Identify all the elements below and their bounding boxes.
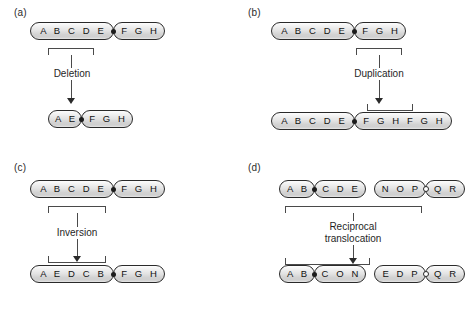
chromosome-arm: F G H F G H xyxy=(354,112,452,130)
arm-letters: A B C D E xyxy=(38,184,107,194)
chromosome-arm: F G H xyxy=(113,265,165,283)
panel-b-chromosome-after: A B C D E F G H F G H xyxy=(271,112,452,130)
panel-d-label: (d) xyxy=(248,162,261,174)
chromosome-arm: A B C D E xyxy=(271,22,355,40)
chromosome-arm: F G H xyxy=(81,110,133,128)
arm-letters: Q R xyxy=(431,184,458,194)
panel-b-bracket-bottom xyxy=(367,104,413,111)
panel-c-label: (c) xyxy=(14,162,26,174)
arm-letters: F G H xyxy=(119,26,160,36)
panel-c-chromosome-before: A B C D E F G H xyxy=(30,180,165,198)
chromosome-arm: N O P xyxy=(374,180,426,198)
panel-b-operation-label: Duplication xyxy=(333,68,425,80)
centromere-icon xyxy=(351,112,358,130)
arm-letters: F G H xyxy=(87,114,128,124)
panel-d-chromosome1-after: A B C O N xyxy=(279,265,366,283)
panel-a-chromosome-after: A E F G H xyxy=(48,110,133,128)
panel-b-chromosome-before: A B C D E F G H xyxy=(271,22,406,40)
arm-letters: A E xyxy=(52,114,77,124)
arm-letters: A B C D E xyxy=(279,26,348,36)
arm-letters: A B C D E xyxy=(38,26,107,36)
arm-letters: E D P xyxy=(380,269,420,279)
panel-d-chromosome2-before: N O P Q R xyxy=(374,180,465,198)
panel-a-chromosome-before: A B C D E F G H xyxy=(30,22,165,40)
panel-d-operation-label-line1: Reciprocal xyxy=(307,221,399,233)
panel-a-label: (a) xyxy=(14,7,27,19)
panel-b-bracket-top xyxy=(356,48,402,55)
panel-d-bracket-bottom xyxy=(285,258,370,265)
chromosome-arm: A B C D E xyxy=(30,22,114,40)
panel-c-operation-label: Inversion xyxy=(31,227,123,239)
chromosome-arm: F G H xyxy=(354,22,406,40)
centromere-open-icon xyxy=(422,265,429,283)
panel-c-bracket-bottom xyxy=(48,256,106,263)
panel-c-bracket-top xyxy=(48,206,106,213)
arm-letters: C D E xyxy=(320,184,361,194)
arm-letters: F G H F G H xyxy=(361,116,446,126)
panel-a-operation-label: Deletion xyxy=(26,68,118,80)
arm-letters: A E D C B xyxy=(38,269,107,279)
panel-d-chromosome2-after: E D P Q R xyxy=(374,265,465,283)
panel-d-bracket-top xyxy=(285,206,422,213)
chromosome-arm: F G H xyxy=(113,180,165,198)
chromosome-arm: A B xyxy=(279,265,315,283)
arm-letters: N O P xyxy=(379,184,420,194)
panel-d-chromosome1-before: A B C D E xyxy=(279,180,366,198)
centromere-icon xyxy=(110,265,117,283)
chromosome-arm: A B C D E xyxy=(271,112,355,130)
panel-a-arrowhead-icon xyxy=(67,98,75,104)
chromosome-arm: Q R xyxy=(425,265,465,283)
panel-d-operation-label-line2: translocation xyxy=(307,233,399,245)
chromosome-arm: A B C D E xyxy=(30,180,114,198)
centromere-icon xyxy=(311,265,318,283)
chromosome-arm: F G H xyxy=(113,22,165,40)
panel-b-label: (b) xyxy=(248,7,261,19)
panel-a-bracket-top xyxy=(48,48,94,55)
panel-c-chromosome-after: A E D C B F G H xyxy=(30,265,165,283)
panel-d: (d) A B C D E N O P Q R Reciprocal trans… xyxy=(234,155,468,310)
arm-letters: A B C D E xyxy=(279,116,348,126)
centromere-open-icon xyxy=(422,180,429,198)
panel-c: (c) A B C D E F G H Inversion A E D C B … xyxy=(0,155,234,310)
arm-letters: F G H xyxy=(360,26,401,36)
chromosome-arm: Q R xyxy=(425,180,465,198)
panel-b: (b) A B C D E F G H Duplication A B C D … xyxy=(234,0,468,155)
centromere-icon xyxy=(110,180,117,198)
chromosome-arm: C O N xyxy=(314,265,366,283)
centromere-icon xyxy=(78,110,85,128)
arm-letters: A B xyxy=(284,184,309,194)
centromere-icon xyxy=(110,22,117,40)
centromere-icon xyxy=(311,180,318,198)
arm-letters: Q R xyxy=(431,269,458,279)
arm-letters: C O N xyxy=(319,269,361,279)
arm-letters: F G H xyxy=(119,269,160,279)
centromere-icon xyxy=(351,22,358,40)
chromosome-arm: C D E xyxy=(314,180,366,198)
arm-letters: A B xyxy=(284,269,309,279)
chromosome-arm: A E D C B xyxy=(30,265,114,283)
chromosome-arm: A B xyxy=(279,180,315,198)
chromosome-arm: E D P xyxy=(374,265,426,283)
panel-a: (a) A B C D E F G H Deletion A E F G H xyxy=(0,0,234,155)
arm-letters: F G H xyxy=(119,184,160,194)
chromosome-arm: A E xyxy=(48,110,82,128)
